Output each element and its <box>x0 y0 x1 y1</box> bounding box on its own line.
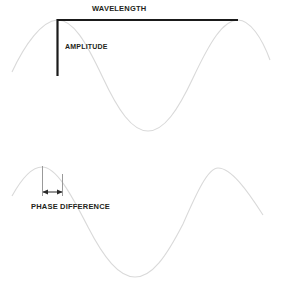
phase-difference-label: PHASE DIFFERENCE <box>31 203 110 211</box>
wave-diagram: WAVELENGTH AMPLITUDE PHASE DIFFERENCE <box>0 0 281 293</box>
phase-difference-arrow-head-left <box>43 190 49 195</box>
lower-wave-curve <box>12 167 263 277</box>
wavelength-label: WAVELENGTH <box>92 5 146 13</box>
phase-difference-arrow-head-right <box>57 190 63 195</box>
upper-wave-curve <box>12 20 270 131</box>
amplitude-label: AMPLITUDE <box>65 43 108 50</box>
wave-diagram-canvas <box>0 0 281 293</box>
